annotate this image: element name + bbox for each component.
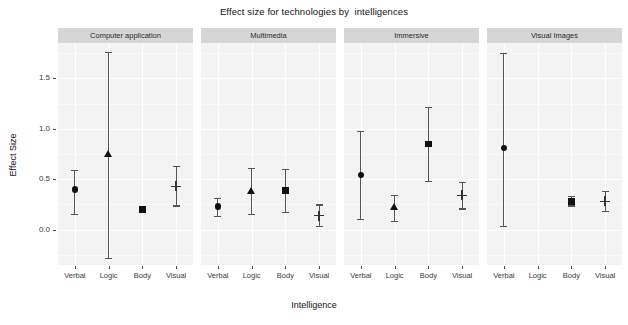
grid-line-horizontal bbox=[487, 230, 622, 231]
grid-line-horizontal-minor bbox=[344, 104, 479, 105]
error-bar-cap bbox=[391, 195, 398, 196]
y-axis-tick-label: 0.0 bbox=[20, 225, 50, 234]
data-point-square bbox=[425, 141, 431, 147]
chart-title: Effect size for technologies by intellig… bbox=[0, 6, 628, 17]
facet-strip-label: Multimedia bbox=[201, 28, 336, 43]
y-axis-tick-mark bbox=[53, 78, 56, 79]
x-axis-tick-mark bbox=[176, 266, 177, 269]
y-axis-title: Effect Size bbox=[8, 120, 18, 190]
x-axis-tick-mark bbox=[361, 266, 362, 269]
facet-panel: Visual Images bbox=[487, 28, 622, 265]
x-axis-tick-mark bbox=[428, 266, 429, 269]
facet-panel: Immersive bbox=[344, 28, 479, 265]
grid-line-horizontal bbox=[344, 129, 479, 130]
data-point-circle bbox=[72, 186, 79, 193]
grid-line-vertical bbox=[75, 43, 76, 265]
grid-line-horizontal-minor bbox=[58, 53, 193, 54]
grid-line-horizontal bbox=[201, 78, 336, 79]
grid-line-horizontal-minor bbox=[201, 154, 336, 155]
error-bar-cap bbox=[105, 258, 112, 259]
plot-area bbox=[201, 43, 336, 265]
grid-line-horizontal bbox=[58, 129, 193, 130]
data-point-triangle bbox=[104, 150, 112, 157]
x-axis-tick-mark bbox=[538, 266, 539, 269]
x-axis-tick-label: Visual bbox=[156, 271, 196, 280]
facet-panel: Multimedia bbox=[201, 28, 336, 265]
facet-strip: Visual Images bbox=[487, 28, 622, 43]
error-bar-cap bbox=[282, 212, 289, 213]
grid-line-vertical bbox=[605, 43, 606, 265]
x-axis-tick-mark bbox=[462, 266, 463, 269]
plot-area bbox=[58, 43, 193, 265]
x-axis-tick-label: Visual bbox=[442, 271, 482, 280]
facet-panel: Computer application bbox=[58, 28, 193, 265]
error-bar-cap bbox=[391, 221, 398, 222]
error-bar-cap bbox=[425, 181, 432, 182]
error-bar-cap bbox=[282, 169, 289, 170]
grid-line-horizontal bbox=[344, 230, 479, 231]
error-bar-cap bbox=[602, 191, 609, 192]
x-axis-tick-mark bbox=[218, 266, 219, 269]
data-point-circle bbox=[215, 203, 222, 210]
data-point-triangle bbox=[390, 203, 398, 210]
y-axis-tick-label: 1.0 bbox=[20, 124, 50, 133]
grid-line-horizontal-minor bbox=[201, 255, 336, 256]
error-bar-cap bbox=[357, 131, 364, 132]
data-point-square bbox=[282, 187, 288, 193]
grid-line-horizontal-minor bbox=[487, 204, 622, 205]
x-axis-tick-mark bbox=[395, 266, 396, 269]
error-bar bbox=[503, 53, 504, 226]
grid-line-vertical bbox=[176, 43, 177, 265]
grid-line-horizontal-minor bbox=[487, 104, 622, 105]
grid-line-vertical bbox=[252, 43, 253, 265]
cross-vertical bbox=[604, 196, 605, 206]
cross-vertical bbox=[175, 181, 176, 191]
grid-line-horizontal bbox=[487, 129, 622, 130]
y-axis-title-wrap: Effect Size bbox=[4, 0, 18, 325]
grid-line-horizontal-minor bbox=[344, 204, 479, 205]
x-axis-tick-label: Visual bbox=[299, 271, 339, 280]
y-axis-tick-mark bbox=[53, 230, 56, 231]
grid-line-horizontal-minor bbox=[487, 255, 622, 256]
grid-line-horizontal bbox=[201, 179, 336, 180]
y-axis-tick-mark bbox=[53, 179, 56, 180]
error-bar-cap bbox=[459, 208, 466, 209]
error-bar-cap bbox=[459, 182, 466, 183]
grid-line-horizontal-minor bbox=[58, 154, 193, 155]
grid-line-horizontal bbox=[201, 230, 336, 231]
grid-line-horizontal-minor bbox=[201, 53, 336, 54]
error-bar-cap bbox=[568, 205, 575, 206]
grid-line-horizontal-minor bbox=[344, 154, 479, 155]
error-bar-cap bbox=[500, 53, 507, 54]
error-bar-cap bbox=[105, 52, 112, 53]
error-bar-cap bbox=[425, 107, 432, 108]
x-axis-tick-mark bbox=[504, 266, 505, 269]
grid-line-horizontal-minor bbox=[344, 255, 479, 256]
x-axis-tick-mark bbox=[285, 266, 286, 269]
grid-line-horizontal bbox=[201, 129, 336, 130]
grid-line-vertical bbox=[395, 43, 396, 265]
x-axis-tick-mark bbox=[319, 266, 320, 269]
facet-strip-label: Visual Images bbox=[487, 28, 622, 43]
plot-area bbox=[487, 43, 622, 265]
grid-line-vertical bbox=[538, 43, 539, 265]
grid-line-vertical bbox=[462, 43, 463, 265]
grid-line-horizontal bbox=[487, 179, 622, 180]
error-bar-cap bbox=[602, 211, 609, 212]
grid-line-horizontal bbox=[344, 78, 479, 79]
y-axis-tick-label: 1.5 bbox=[20, 73, 50, 82]
grid-line-vertical bbox=[319, 43, 320, 265]
error-bar-cap bbox=[248, 214, 255, 215]
error-bar-cap bbox=[214, 198, 221, 199]
error-bar-cap bbox=[71, 214, 78, 215]
facet-strip-label: Computer application bbox=[58, 28, 193, 43]
grid-line-horizontal-minor bbox=[487, 154, 622, 155]
data-point-circle bbox=[501, 145, 508, 152]
grid-line-vertical bbox=[285, 43, 286, 265]
error-bar-cap bbox=[173, 166, 180, 167]
cross-vertical bbox=[318, 211, 319, 221]
x-axis-tick-mark bbox=[605, 266, 606, 269]
error-bar-cap bbox=[357, 219, 364, 220]
x-axis-tick-mark bbox=[75, 266, 76, 269]
grid-line-horizontal bbox=[58, 179, 193, 180]
